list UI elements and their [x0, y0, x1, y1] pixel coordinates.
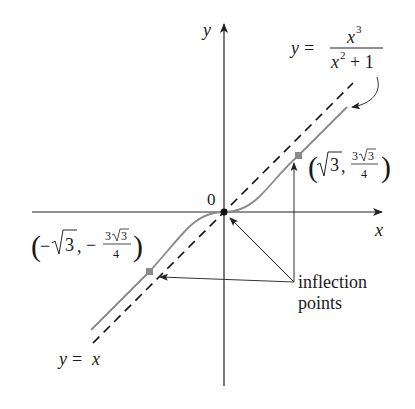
svg-text:,: , — [341, 156, 346, 176]
svg-text:3: 3 — [121, 229, 127, 243]
y-axis-label: y — [201, 20, 211, 40]
svg-text:−: − — [40, 236, 50, 256]
svg-text:(: ( — [308, 150, 318, 184]
function-graph: y x 0 y = x 3 x 2 + 1 ( 3 , 3 3 4 ) ( − … — [0, 0, 415, 409]
inflection-label-left: ( − 3 , − 3 3 4 ) — [31, 229, 143, 263]
label-pointer-arrow — [352, 77, 378, 107]
svg-text:3: 3 — [65, 235, 74, 255]
svg-text:4: 4 — [113, 247, 119, 261]
x-axis-label: x — [374, 220, 383, 240]
svg-text:x: x — [346, 27, 355, 47]
svg-text:): ) — [133, 229, 143, 263]
svg-text:=: = — [304, 38, 314, 58]
svg-text:3: 3 — [352, 149, 358, 163]
inflection-points-label-line1: inflection — [298, 272, 367, 292]
svg-text:y: y — [57, 349, 67, 369]
svg-text:3: 3 — [330, 155, 339, 175]
origin-point — [221, 209, 228, 216]
svg-text:3: 3 — [105, 229, 111, 243]
inflection-point-left — [146, 268, 153, 275]
svg-text:x: x — [91, 349, 100, 369]
asymptote-label: y = x — [57, 349, 100, 369]
pointer-origin — [230, 218, 294, 282]
svg-text:): ) — [381, 150, 391, 184]
function-label: y = x 3 x 2 + 1 — [289, 23, 383, 72]
inflection-points-label-line2: points — [298, 293, 342, 313]
pointer-left — [160, 277, 294, 282]
svg-text:=: = — [72, 349, 82, 369]
svg-text:4: 4 — [361, 167, 367, 181]
svg-text:2: 2 — [340, 49, 346, 61]
svg-text:3: 3 — [356, 23, 362, 35]
svg-text:−: − — [86, 235, 96, 255]
inflection-label-right: ( 3 , 3 3 4 ) — [308, 149, 391, 184]
svg-text:3: 3 — [368, 149, 374, 163]
svg-text:y: y — [289, 38, 299, 58]
inflection-point-right — [295, 152, 302, 159]
svg-text:x: x — [330, 52, 339, 72]
svg-text:+ 1: + 1 — [350, 52, 374, 72]
origin-label: 0 — [207, 190, 216, 209]
svg-text:,: , — [77, 236, 82, 256]
